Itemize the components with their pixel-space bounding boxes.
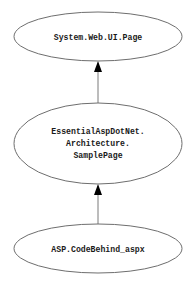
arrowhead-icon: [94, 61, 102, 72]
node-codebehind-aspx[interactable]: ASP.CodeBehind_aspx: [14, 224, 182, 273]
node-label: ASP.CodeBehind_aspx: [51, 245, 144, 254]
edge-codebehind-to-samplepage: [94, 184, 102, 224]
arrowhead-icon: [94, 184, 102, 195]
node-label-line-1: EssentialAspDotNet.: [51, 127, 144, 136]
node-label-line-2: Architecture.: [66, 139, 130, 148]
node-sample-page[interactable]: EssentialAspDotNet. Architecture. Sample…: [14, 103, 182, 184]
inheritance-diagram: System.Web.UI.Page EssentialAspDotNet. A…: [0, 0, 191, 282]
node-system-web-ui-page[interactable]: System.Web.UI.Page: [14, 12, 182, 61]
node-label-line-3: SamplePage: [73, 151, 122, 160]
edge-samplepage-to-page: [94, 61, 102, 103]
node-label: System.Web.UI.Page: [54, 33, 143, 42]
